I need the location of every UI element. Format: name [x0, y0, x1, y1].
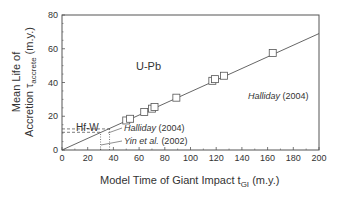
y-tick-label: 20 — [48, 111, 58, 121]
x-tick-label: 80 — [160, 153, 170, 163]
halliday-hfw-label: Halliday (2004) — [124, 123, 185, 133]
x-tick-label: 180 — [286, 153, 301, 163]
x-axis-label: Model Time of Giant Impact tGI (m.y.) — [100, 174, 279, 189]
y-axis-label: Mean Life of Accretion τaccrete (m.y.) — [10, 27, 38, 137]
halliday-upb-label: Halliday (2004) — [248, 91, 309, 101]
x-tick-label: 40 — [108, 153, 118, 163]
y-tick-label: 80 — [48, 10, 58, 20]
x-tick-label: 60 — [134, 153, 144, 163]
data-point-square — [211, 76, 218, 83]
x-tick-label: 200 — [311, 153, 326, 163]
x-tick-label: 0 — [59, 153, 64, 163]
x-tick-label: 140 — [234, 153, 249, 163]
y-tick-label: 0 — [53, 145, 58, 155]
data-point-square — [127, 115, 134, 122]
x-tick-label: 120 — [209, 153, 224, 163]
x-tick-label: 160 — [260, 153, 275, 163]
x-tick-label: 100 — [183, 153, 198, 163]
data-point-square — [151, 103, 158, 110]
y-tick-label: 60 — [48, 44, 58, 54]
hfw-label: Hf-W — [76, 122, 99, 133]
data-point-square — [220, 72, 227, 79]
chart-svg: 020406080100120140160180200020406080 U-P… — [0, 0, 343, 197]
halliday-hfw-pointer — [108, 128, 122, 133]
data-point-square — [269, 49, 276, 56]
chart-figure: 020406080100120140160180200020406080 U-P… — [0, 0, 343, 197]
y-tick-label: 40 — [48, 78, 58, 88]
upb-label: U-Pb — [136, 60, 161, 72]
data-point-square — [173, 94, 180, 101]
yin-label: Yin et al. (2002) — [124, 136, 187, 146]
plot-frame — [62, 15, 319, 150]
yin-pointer — [101, 141, 122, 145]
svg-text:Mean Life of: Mean Life of — [10, 51, 22, 112]
data-point-square — [141, 109, 148, 116]
svg-text:Accretion τaccrete (m.y.): Accretion τaccrete (m.y.) — [23, 27, 38, 137]
x-tick-label: 20 — [83, 153, 93, 163]
